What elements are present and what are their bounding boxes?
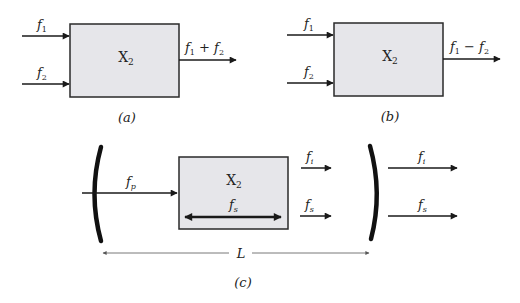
left-mirror-icon xyxy=(95,147,102,241)
panel-a: X2 f1 f2 f1 + f2 (a) xyxy=(22,17,236,125)
input-label-f1-a: f1 xyxy=(36,17,47,34)
output-label-difference: f1 − f2 xyxy=(449,39,489,56)
input-label-f1-b: f1 xyxy=(303,16,314,33)
cavity-length-label: L xyxy=(236,246,246,261)
caption-b: (b) xyxy=(381,109,399,124)
caption-a: (a) xyxy=(118,110,136,125)
input-label-f2-b: f2 xyxy=(303,64,314,81)
right-mirror-icon xyxy=(370,146,377,239)
caption-c: (c) xyxy=(234,275,251,290)
input-label-f2-a: f2 xyxy=(36,65,47,82)
output-label-sum: f1 + f2 xyxy=(184,40,224,57)
signal-label-outer: fs xyxy=(417,197,427,214)
pump-label: fp xyxy=(125,174,136,191)
panel-c: fp X2 fs fi fs fi fs L (c) xyxy=(82,146,457,290)
diagram-canvas: X2 f1 f2 f1 + f2 (a) X2 f1 f2 f1 − f2 (b… xyxy=(0,0,520,303)
idler-label-inner: fi xyxy=(305,149,314,166)
panel-b: X2 f1 f2 f1 − f2 (b) xyxy=(287,16,500,124)
idler-label-outer: fi xyxy=(417,149,426,166)
signal-label-inner: fs xyxy=(304,197,314,214)
